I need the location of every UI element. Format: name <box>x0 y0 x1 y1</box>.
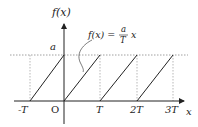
annotation-numerator: a <box>121 24 126 34</box>
y-axis-label: f(x) <box>51 6 71 19</box>
annotation-rhs: x <box>131 29 137 40</box>
sawtooth-segment-2 <box>64 55 100 101</box>
origin-label: O <box>51 104 59 115</box>
x-axis-label: x <box>186 106 192 117</box>
sawtooth-segment-4 <box>137 55 173 101</box>
annotation-lhs: f(x) = <box>87 29 115 40</box>
level-a-label: a <box>50 41 56 52</box>
tick-label-neg-T: -T <box>18 104 29 115</box>
tick-label-3T: 3T <box>165 104 179 115</box>
sawtooth-segment-1 <box>30 55 64 101</box>
sawtooth-diagram: f(x) x a O -T T 2T 3T f(x) = a T x <box>0 0 198 127</box>
tick-label-2T: 2T <box>129 104 144 115</box>
tick-label-T: T <box>96 104 104 115</box>
sawtooth-segment-3 <box>100 55 137 101</box>
annotation-denominator: T <box>120 35 127 45</box>
